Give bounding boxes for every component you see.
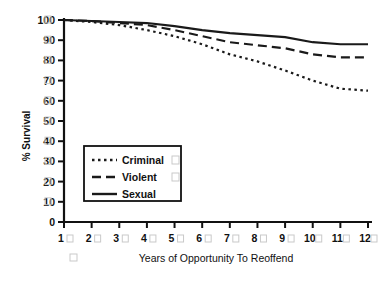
scan-artifact-box: [70, 254, 77, 261]
legend-label-violent: Violent: [122, 171, 157, 183]
x-tick-label: 6: [196, 232, 202, 244]
x-tick-label: 9: [279, 232, 285, 244]
x-tick-label: 2: [86, 232, 92, 244]
y-tick-label: 0: [49, 216, 55, 228]
x-axis-ticks: 123456789101112: [58, 222, 377, 244]
scan-artifact-box: [260, 235, 266, 242]
scan-artifact-box: [316, 235, 322, 242]
series-line-sexual: [64, 20, 368, 44]
scan-artifact-box: [343, 235, 349, 242]
x-tick-label: 12: [359, 232, 371, 244]
x-tick-label: 1: [58, 232, 64, 244]
scan-artifact-box: [288, 235, 294, 242]
scan-artifact-box: [178, 235, 184, 242]
x-tick-label: 8: [252, 232, 258, 244]
chart-svg: % Survival 0102030405060708090100 123456…: [0, 0, 388, 285]
scan-artifact-box: [67, 235, 73, 242]
scan-artifact-box: [205, 235, 211, 242]
scan-artifact-box: [371, 235, 377, 242]
scan-artifact-box: [233, 235, 239, 242]
x-tick-label: 7: [224, 232, 230, 244]
scan-artifact-box: [122, 235, 128, 242]
x-tick-label: 10: [304, 232, 316, 244]
x-tick-label: 11: [332, 232, 343, 244]
scan-artifact-box: [95, 235, 101, 242]
series-line-violent: [64, 20, 368, 57]
y-axis-ticks: 0102030405060708090100: [37, 14, 64, 228]
x-tick-label: 5: [169, 232, 175, 244]
x-tick-label: 3: [113, 232, 119, 244]
x-tick-label: 4: [141, 232, 147, 244]
series-layer: [64, 20, 368, 91]
x-axis-title: Years of Opportunity To Reoffend: [139, 252, 294, 264]
survival-chart: % Survival 0102030405060708090100 123456…: [0, 0, 388, 285]
scan-artifact-box: [150, 235, 156, 242]
legend-label-criminal: Criminal: [122, 154, 164, 166]
y-axis-title: % Survival: [21, 110, 32, 161]
legend: CriminalViolentSexual: [84, 146, 181, 201]
legend-label-sexual: Sexual: [122, 188, 156, 200]
